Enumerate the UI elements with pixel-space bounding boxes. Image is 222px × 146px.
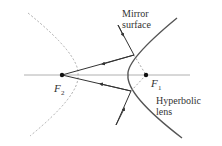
- f2-label: F: [53, 82, 61, 94]
- focus-f1-dot: [144, 73, 148, 77]
- mirror-label-line1: Mirror: [122, 8, 149, 19]
- lens-label-line1: Hyperbolic: [156, 95, 202, 106]
- lens-label-line2: lens: [156, 106, 172, 117]
- f1-label: F: [150, 77, 158, 89]
- incident-ray-bottom-arrow: [116, 109, 124, 125]
- dashed-line-to-f1-bottom: [131, 75, 146, 91]
- reflected-ray-bottom-arrow: [101, 84, 131, 91]
- f1-subscript: 1: [158, 84, 162, 92]
- f2-subscript: 2: [61, 89, 65, 97]
- mirror-label-line2: surface: [122, 19, 151, 30]
- hyperbolic-lens-diagram: Mirror surface F 2 F 1 Hyperbolic lens: [0, 0, 222, 146]
- focus-f2-dot: [60, 73, 64, 77]
- reflected-ray-top-arrow: [103, 55, 134, 64]
